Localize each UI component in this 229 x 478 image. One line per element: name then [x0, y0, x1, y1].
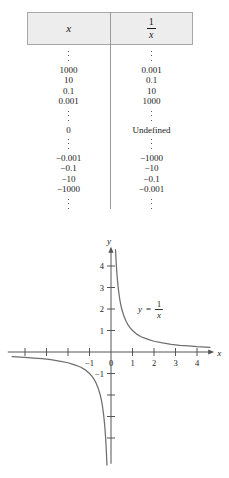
ellipsis-dot [151, 203, 152, 204]
x-tick-label: 4 [195, 358, 200, 368]
ellipsis-dot [151, 55, 152, 56]
table-cell-x: 0.1 [63, 86, 74, 97]
table-cell-one-over-x: 10 [147, 86, 156, 97]
table-cell-one-over-x: 0.001 [141, 65, 161, 76]
ellipsis-dot [151, 148, 152, 149]
x-tick-label: 2 [152, 358, 156, 368]
x-tick-label: 3 [173, 358, 177, 368]
graph-plot-area: xy−1012344321−1 y=1x [0, 222, 229, 478]
table-cell-ellipsis-x [68, 107, 69, 125]
y-tick-label: 2 [100, 304, 104, 314]
x-axis-label: x [216, 348, 221, 358]
y-axis-arrowhead [108, 247, 113, 253]
table-cell-one-over-x: 0.1 [146, 75, 157, 86]
ellipsis-dot [151, 208, 152, 209]
y-tick-label: 1 [100, 326, 104, 336]
table-cell-one-over-x: −1000 [140, 153, 163, 164]
y-tick-label: 3 [100, 283, 104, 293]
ellipsis-dot [151, 111, 152, 112]
table-cell-x: 0.001 [58, 96, 78, 107]
fraction-denominator: x [147, 29, 155, 40]
ellipsis-dot [151, 139, 152, 140]
fraction-one-over-x: 1 x [147, 17, 156, 40]
ellipsis-dot [151, 60, 152, 61]
ellipsis-dot [151, 115, 152, 116]
table-cell-ellipsis-inv [151, 135, 152, 153]
ellipsis-dot [151, 199, 152, 200]
reciprocal-graph-figure: xy−1012344321−1 y=1x [0, 222, 229, 478]
ellipsis-dot [151, 143, 152, 144]
table-cell-ellipsis-x [68, 195, 69, 213]
table-cell-ellipsis-inv [151, 47, 152, 65]
table-header-cell-one-over-x: 1 x [111, 13, 193, 44]
table-cell-one-over-x: −10 [144, 163, 158, 174]
table-cell-one-over-x: −0.001 [139, 184, 164, 195]
ellipsis-dot [68, 120, 69, 121]
ellipsis-dot [151, 51, 152, 52]
fraction-numerator: 1 [147, 17, 156, 28]
ellipsis-dot [68, 60, 69, 61]
ellipsis-dot [68, 199, 69, 200]
table-cell-ellipsis-inv [151, 107, 152, 125]
equation-annotation-group: y=1x [137, 299, 163, 320]
table-header-label-x: x [66, 23, 71, 34]
ellipsis-dot [68, 148, 69, 149]
table-cell-x: 10 [64, 75, 73, 86]
table-cell-x: −1000 [57, 184, 80, 195]
y-tick-label: 4 [100, 261, 105, 271]
ellipsis-dot [68, 208, 69, 209]
table-cell-one-over-x: Undefined [133, 125, 171, 136]
equation-numerator: 1 [157, 299, 162, 309]
x-tick-label: −1 [85, 358, 94, 368]
reciprocal-table-figure: x 1 x 1000100.10.0010−0.001−0.1−10−1000 … [0, 0, 229, 222]
table-column-x: 1000100.10.0010−0.001−0.1−10−1000 [27, 47, 110, 213]
ellipsis-dot [68, 55, 69, 56]
table-cell-one-over-x: −0.1 [143, 174, 159, 185]
x-axis-arrowhead [208, 349, 214, 354]
ellipsis-dot [68, 51, 69, 52]
hyperbola-branch-2 [12, 357, 107, 465]
equation-lhs: y [137, 304, 142, 314]
table-cell-x: −0.1 [60, 163, 76, 174]
ellipsis-dot [68, 115, 69, 116]
table-cell-ellipsis-x [68, 135, 69, 153]
x-tick-label: 0 [109, 358, 113, 368]
table-cell-ellipsis-x [68, 47, 69, 65]
table-cell-x: −10 [61, 174, 75, 185]
table-column-one-over-x: 0.0010.1101000Undefined−1000−10−0.1−0.00… [110, 47, 193, 213]
equation-equals: = [146, 304, 151, 314]
table-body: 1000100.10.0010−0.001−0.1−10−1000 0.0010… [27, 47, 193, 213]
table-cell-x: 0 [66, 125, 71, 136]
ellipsis-dot [151, 120, 152, 121]
table-cell-x: −0.001 [56, 153, 81, 164]
ellipsis-dot [68, 203, 69, 204]
table-header-cell-x: x [28, 13, 111, 44]
table-cell-one-over-x: 1000 [143, 96, 161, 107]
ellipsis-dot [68, 111, 69, 112]
table-cell-x: 1000 [60, 65, 78, 76]
y-axis-label: y [106, 236, 111, 246]
tick-labels-group: xy−1012344321−1 [85, 236, 221, 379]
table-cell-ellipsis-inv [151, 195, 152, 213]
ellipsis-dot [68, 143, 69, 144]
y-tick-label: −1 [95, 369, 104, 379]
x-tick-label: 1 [130, 358, 134, 368]
ellipsis-dot [68, 139, 69, 140]
hyperbola-branch-1 [116, 250, 210, 348]
axes-group [8, 247, 214, 464]
equation-denominator: x [156, 310, 161, 320]
